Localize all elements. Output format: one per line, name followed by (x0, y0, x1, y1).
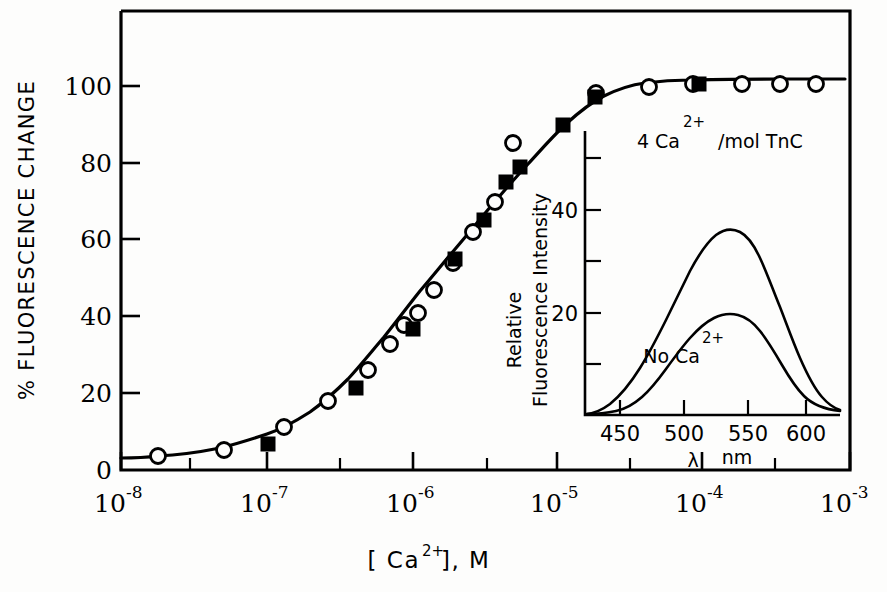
data-point-filled (556, 118, 570, 132)
data-point-filled (406, 322, 420, 336)
y-tick-label-20: 20 (80, 379, 112, 408)
data-point-open (383, 337, 398, 352)
x-tick-base-5: 10 (675, 489, 707, 518)
data-point-filled (477, 213, 491, 227)
x-tick-base-2: 10 (240, 489, 272, 518)
x-tick-exp-6: -3 (852, 482, 869, 502)
data-point-open (277, 420, 292, 435)
data-point-open (488, 195, 503, 210)
data-point-open (506, 136, 521, 151)
data-point-open (642, 80, 657, 95)
data-point-open (735, 77, 750, 92)
x-tick-label-1e-7: 10 -7 (240, 482, 288, 518)
data-point-open (411, 306, 426, 321)
x-tick-base-6: 10 (820, 489, 852, 518)
x-tick-exp-3: -6 (418, 482, 435, 502)
data-point-open (151, 449, 166, 464)
data-point-filled (588, 90, 602, 104)
inset-y-axis-tick-labels: 40 20 (551, 199, 578, 326)
y-axis-ticks (121, 86, 140, 393)
y-axis-title: % FLUORESCENCE CHANGE (15, 80, 39, 400)
x-tick-exp-1: -8 (126, 482, 143, 502)
x-tick-exp-5: -4 (707, 482, 724, 502)
inset-x-axis-lambda: λ (687, 449, 698, 471)
x-axis-tick-labels: 10 -8 10 -7 10 -6 10 -5 10 -4 10 -3 (94, 482, 868, 518)
inset-y-axis-ticks (585, 158, 601, 364)
inset-y-axis-title: Relative Fluorescence Intensity (503, 193, 551, 407)
figure-root: 100 80 60 40 20 0 % FLUORESCENCE CHANGE (0, 0, 887, 592)
x-tick-label-1e-8: 10 -8 (94, 482, 142, 518)
data-point-open (217, 443, 232, 458)
x-axis-title-pre: [ Ca (368, 547, 420, 573)
inset-x-axis-tick-labels: 450 500 550 600 (600, 422, 826, 446)
inset-y-axis-title-line2: Fluorescence Intensity (529, 193, 551, 407)
data-point-filled (349, 381, 363, 395)
x-tick-exp-4: -5 (562, 482, 579, 502)
y-tick-label-60: 60 (80, 225, 112, 254)
inset-annotation-4ca-pre: 4 Ca (637, 130, 680, 152)
inset-y-tick-label-20: 20 (551, 302, 578, 326)
data-point-open (321, 394, 336, 409)
inset-annotation-4ca: 4 Ca 2+ /mol TnC (637, 113, 803, 152)
data-point-open (361, 363, 376, 378)
x-tick-label-1e-4: 10 -4 (675, 482, 723, 518)
data-point-filled (261, 437, 275, 451)
inset-x-tick-label-600: 600 (786, 422, 826, 446)
data-point-open (809, 77, 824, 92)
inset-x-tick-label-450: 450 (600, 422, 640, 446)
x-tick-label-1e-6: 10 -6 (386, 482, 434, 518)
data-point-open (773, 77, 788, 92)
data-point-filled (448, 252, 462, 266)
inset-x-axis-title: λ nm (687, 446, 752, 471)
inset-annotation-noca: No Ca 2+ (643, 329, 724, 367)
inset-x-tick-label-550: 550 (728, 422, 768, 446)
inset-y-tick-label-40: 40 (551, 199, 578, 223)
x-tick-base-4: 10 (530, 489, 562, 518)
inset-annotation-4ca-sup: 2+ (683, 113, 705, 131)
inset-annotation-noca-pre: No Ca (643, 345, 700, 367)
inset-x-axis-unit: nm (722, 446, 753, 468)
x-tick-label-1e-5: 10 -5 (530, 482, 578, 518)
x-tick-exp-2: -7 (272, 482, 289, 502)
inset-axes (585, 131, 840, 415)
inset-x-axis-ticks (620, 400, 806, 415)
y-tick-label-0: 0 (96, 456, 112, 485)
x-axis-title: [ Ca 2+ ], M (368, 542, 491, 573)
data-point-open (427, 283, 442, 298)
y-tick-label-80: 80 (80, 149, 112, 178)
y-axis-title-text: % FLUORESCENCE CHANGE (15, 80, 39, 400)
inset-x-tick-label-500: 500 (664, 422, 704, 446)
x-tick-label-1e-3: 10 -3 (820, 482, 868, 518)
inset-plot: 40 20 Relative Fluorescence Intensity 45… (503, 113, 840, 471)
inset-curve-4ca (587, 230, 840, 414)
y-tick-label-100: 100 (64, 72, 112, 101)
data-point-filled (499, 175, 513, 189)
inset-annotation-4ca-post: /mol TnC (718, 130, 803, 152)
x-axis-title-post: ], M (441, 547, 490, 573)
inset-annotation-noca-sup: 2+ (702, 329, 724, 347)
data-point-filled (513, 160, 527, 174)
chart-canvas: 100 80 60 40 20 0 % FLUORESCENCE CHANGE (0, 0, 887, 592)
x-tick-base-3: 10 (386, 489, 418, 518)
y-tick-label-40: 40 (80, 302, 112, 331)
y-axis-tick-labels: 100 80 60 40 20 0 (64, 72, 112, 485)
data-point-filled (692, 77, 706, 91)
inset-y-axis-title-line1: Relative (503, 292, 525, 369)
x-tick-base-1: 10 (94, 489, 126, 518)
